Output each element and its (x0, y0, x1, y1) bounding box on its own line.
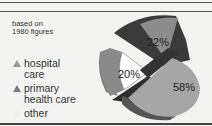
label-primary-pct: 22% (147, 36, 169, 48)
pie-chart: 22% 20% 58% (0, 0, 212, 126)
bottom-rule (0, 123, 212, 125)
label-hospital-pct: 58% (173, 81, 195, 93)
label-other-pct: 20% (118, 68, 140, 80)
